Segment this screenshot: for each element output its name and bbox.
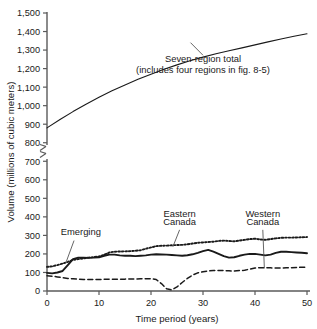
annotation-emerging: Emerging <box>61 226 101 237</box>
annotation-western-canada-line2: Canada <box>246 216 280 227</box>
y-axis-title: Volume (millions of cubic meters) <box>5 82 16 223</box>
annotation-seven-region-note: (includes four regions in fig. 8-5) <box>136 64 270 75</box>
y-axis-tick-label: 1,500 <box>17 8 40 18</box>
x-axis-tick-label: 10 <box>94 298 104 308</box>
x-axis-tick-label: 20 <box>146 298 156 308</box>
y-axis-tick-label: 500 <box>25 194 40 204</box>
series-line-eastern-canada <box>47 237 307 267</box>
y-axis-tick-label: 200 <box>25 249 40 259</box>
series-line-western-canada <box>47 267 307 290</box>
y-axis-tick-label: 1,000 <box>17 101 40 111</box>
annotation-leader-western-canada <box>263 230 265 269</box>
y-axis-tick-label: 700 <box>25 157 40 167</box>
y-axis-tick-label: 100 <box>25 268 40 278</box>
y-axis-tick-label: 600 <box>25 175 40 185</box>
y-axis-tick-label: 1,100 <box>17 83 40 93</box>
y-axis-tick-label: 1,200 <box>17 64 40 74</box>
series-line-seven-region-total <box>47 34 307 128</box>
chart-figure: 01002003004005006007008009001,0001,1001,… <box>0 0 317 329</box>
y-axis-tick-label: 400 <box>25 212 40 222</box>
y-axis-tick-label: 900 <box>25 120 40 130</box>
y-axis-tick-label: 0 <box>35 286 40 296</box>
y-axis-tick-label: 800 <box>25 138 40 148</box>
y-axis-tick-label: 1,400 <box>17 27 40 37</box>
x-axis-title: Time period (years) <box>136 313 219 324</box>
annotation-eastern-canada-line2: Canada <box>163 216 197 227</box>
x-axis-tick-label: 30 <box>198 298 208 308</box>
y-axis-tick-label: 300 <box>25 231 40 241</box>
line-chart-canvas: 01002003004005006007008009001,0001,1001,… <box>0 0 317 329</box>
x-axis-tick-label: 40 <box>250 298 260 308</box>
x-axis-tick-label: 50 <box>302 298 312 308</box>
y-axis-tick-label: 1,300 <box>17 45 40 55</box>
series-line-emerging <box>47 250 307 274</box>
x-axis-tick-label: 0 <box>44 298 49 308</box>
